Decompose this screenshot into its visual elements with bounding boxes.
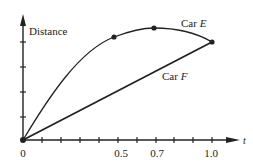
- x-tick-label-07: 0.7: [150, 147, 164, 159]
- y-axis-arrow-icon: [20, 14, 26, 26]
- x-axis-arrow-icon: [226, 137, 240, 143]
- car-f-label: Car F: [162, 70, 188, 82]
- car-e-point-07: [151, 25, 156, 30]
- car-f-line: [23, 42, 212, 140]
- car-e-curve: [23, 28, 212, 140]
- car-e-label: Car E: [181, 17, 207, 29]
- distance-time-chart: Distance Car E Car F t 0 0.5 0.7 1.0: [0, 0, 253, 163]
- intersection-point-10: [209, 39, 214, 44]
- x-tick-label-10: 1.0: [204, 147, 218, 159]
- origin-point: [20, 137, 26, 143]
- x-tick-label-05: 0.5: [114, 147, 128, 159]
- car-e-point-05: [111, 34, 116, 39]
- y-axis-label: Distance: [29, 25, 68, 37]
- x-tick-label-0: 0: [20, 147, 26, 159]
- x-axis-label: t: [243, 135, 246, 146]
